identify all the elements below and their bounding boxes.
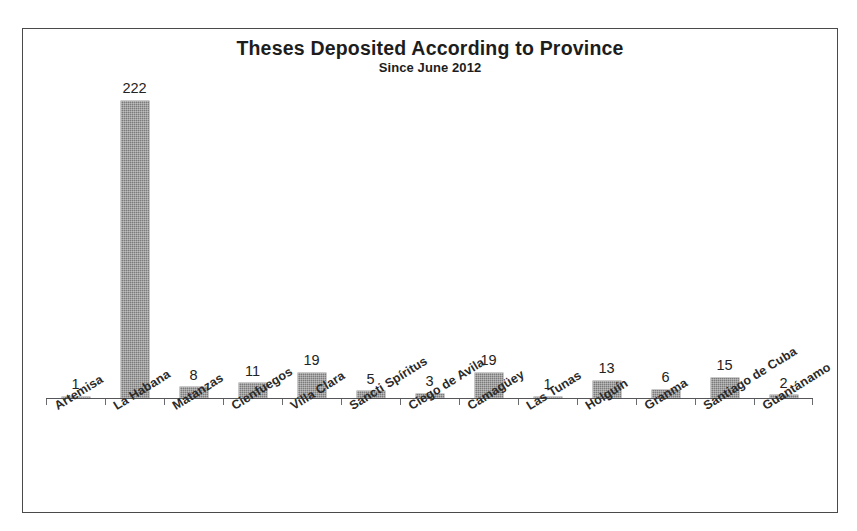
plot-area: 12228111953191136152 bbox=[46, 71, 813, 399]
bar-value-label: 15 bbox=[695, 358, 755, 373]
scan-artifact-top: · · · bbox=[0, 0, 857, 10]
bar-value-label: 19 bbox=[282, 353, 342, 368]
chart-title: Theses Deposited According to Province bbox=[23, 37, 837, 59]
title-block: Theses Deposited According to Province S… bbox=[23, 37, 837, 75]
x-axis-labels: ArtemisaLa HabanaMatanzasCienfuegosVilla… bbox=[46, 401, 813, 511]
chart-frame: Theses Deposited According to Province S… bbox=[22, 28, 838, 513]
bar-value-label: 222 bbox=[105, 81, 165, 96]
bar bbox=[121, 101, 149, 398]
bar-value-label: 13 bbox=[577, 361, 637, 376]
